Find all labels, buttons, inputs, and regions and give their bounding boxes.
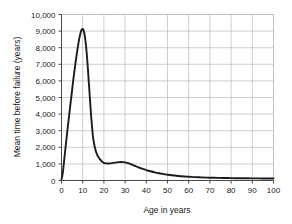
y-axis-tick-label: 6,000 — [35, 77, 56, 86]
y-axis-tick-label: 1,000 — [35, 160, 56, 169]
x-axis-tick-label: 100 — [267, 186, 281, 195]
grid-layer — [62, 15, 274, 181]
y-axis-tick-label: 2,000 — [35, 143, 56, 152]
tick-label-layer: 01,0002,0003,0004,0005,0006,0007,0008,00… — [31, 11, 281, 195]
x-axis-tick-label: 60 — [184, 186, 193, 195]
chart-container: 01,0002,0003,0004,0005,0006,0007,0008,00… — [0, 0, 292, 224]
chart-plot: 01,0002,0003,0004,0005,0006,0007,0008,00… — [0, 0, 292, 224]
y-axis-tick-label: 5,000 — [35, 94, 56, 103]
x-axis-title: Age in years — [143, 205, 190, 215]
y-axis-tick-label: 10,000 — [31, 11, 56, 20]
x-axis-tick-label: 10 — [78, 186, 87, 195]
x-axis-tick-label: 80 — [227, 186, 236, 195]
y-axis-tick-label: 0 — [51, 177, 56, 186]
y-axis-tick-label: 7,000 — [35, 60, 56, 69]
y-axis-tick-label: 4,000 — [35, 110, 56, 119]
x-axis-tick-label: 40 — [142, 186, 151, 195]
x-axis-tick-label: 90 — [248, 186, 257, 195]
y-axis-title: Mean time before failure (years) — [12, 37, 22, 158]
x-axis-tick-label: 20 — [99, 186, 108, 195]
y-axis-tick-label: 9,000 — [35, 27, 56, 36]
x-axis-tick-label: 70 — [205, 186, 214, 195]
x-axis-tick-label: 30 — [121, 186, 130, 195]
x-axis-tick-label: 50 — [163, 186, 172, 195]
x-axis-tick-label: 0 — [59, 186, 64, 195]
y-axis-tick-label: 3,000 — [35, 127, 56, 136]
y-axis-tick-label: 8,000 — [35, 44, 56, 53]
